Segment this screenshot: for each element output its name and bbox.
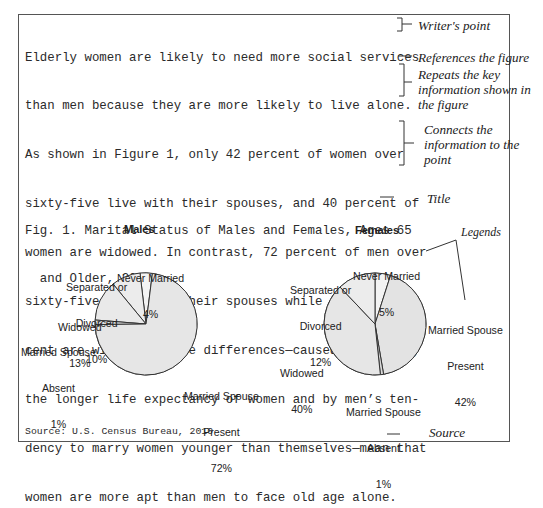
figure-source: Source: U.S. Census Bureau, 2010 [25, 426, 213, 437]
label-text: Never Married [353, 270, 420, 282]
label-text: Married Spouse [184, 390, 259, 402]
females-label-widowed: Widowed 40% [280, 343, 324, 427]
females-label-absent: Married Spouse Absent 1% [346, 382, 421, 502]
males-label-absent: Married Spouse Absent 1% [21, 322, 96, 442]
females-label-never-married: Never Married 5% [353, 246, 420, 330]
label-value: 1% [346, 478, 421, 490]
label-value: 40% [280, 403, 324, 415]
label-text: Absent [346, 442, 421, 454]
label-value: 5% [353, 306, 420, 318]
females-chart-title: Females [355, 224, 399, 236]
label-text: Widowed [280, 367, 324, 379]
label-value: 42% [428, 396, 503, 408]
label-text: Absent [21, 382, 96, 394]
label-text: Married Spouse [346, 406, 421, 418]
label-text: Divorced [290, 320, 351, 332]
label-text: Separated or [290, 284, 351, 296]
label-text: Separated or [66, 281, 127, 293]
label-text: Married Spouse [21, 346, 96, 358]
label-text: Married Spouse [428, 324, 503, 336]
label-text: Present [428, 360, 503, 372]
label-value: 72% [184, 462, 259, 474]
males-chart-title: Males [124, 223, 155, 235]
females-label-present: Married Spouse Present 42% [428, 300, 503, 420]
